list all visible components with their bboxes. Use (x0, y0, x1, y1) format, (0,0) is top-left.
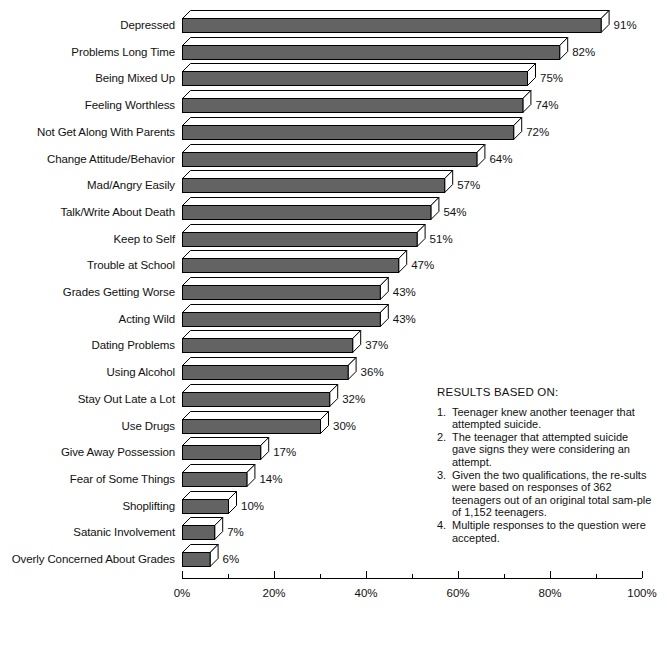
results-notes-block: RESULTS BASED ON: 1.Teenager knew anothe… (437, 386, 652, 544)
bar-row: Being Mixed Up75% (0, 63, 667, 90)
bar-top-face (182, 358, 356, 366)
x-tick-label: 0% (174, 587, 191, 599)
category-label: Being Mixed Up (0, 72, 175, 85)
bar-front-face (182, 526, 214, 540)
bar-row: Problems Long Time82% (0, 37, 667, 64)
results-note-number: 2. (437, 431, 446, 444)
results-notes-list: 1.Teenager knew another teenager that at… (437, 406, 652, 545)
bar-top-face (182, 144, 484, 152)
bar (182, 144, 486, 171)
bar-front-face (182, 232, 417, 246)
bar-top-face (183, 411, 329, 419)
category-label: Using Alcohol (0, 366, 175, 379)
bar-front-face (183, 286, 381, 300)
bar-value-label: 47% (411, 259, 434, 272)
bar-front-face (183, 72, 528, 86)
bar (182, 10, 611, 37)
bar-row: Overly Concerned About Grades6% (0, 544, 667, 571)
bar-top-face (182, 91, 530, 99)
bar-front-face (182, 45, 559, 59)
bar-row: Using Alcohol36% (0, 357, 667, 384)
category-label: Mad/Angry Easily (0, 179, 175, 192)
bar-front-face (182, 339, 352, 353)
bar (182, 63, 537, 90)
results-note-number: 3. (437, 469, 446, 482)
results-note-item: 2.The teenager that attempted suicide ga… (437, 431, 652, 469)
category-label: Give Away Possession (0, 446, 175, 459)
bar-row: Depressed91% (0, 10, 667, 37)
bar-row: Change Attitude/Behavior64% (0, 144, 667, 171)
x-tick-label: 80% (538, 587, 561, 599)
bar (182, 330, 362, 357)
category-label: Talk/Write About Death (0, 206, 175, 219)
bar-top-face (182, 117, 521, 125)
category-label: Dating Problems (0, 339, 175, 352)
results-note-text: Multiple responses to the question were … (452, 519, 646, 544)
results-notes-title: RESULTS BASED ON: (437, 386, 652, 399)
bar-row: Feeling Worthless74% (0, 90, 667, 117)
bar (182, 437, 270, 464)
bar-value-label: 43% (393, 286, 416, 299)
bar-top-face (183, 491, 237, 499)
category-label: Feeling Worthless (0, 99, 175, 112)
bar-front-face (182, 205, 430, 219)
bar-row: Mad/Angry Easily57% (0, 170, 667, 197)
bar-value-label: 14% (259, 473, 282, 486)
results-note-item: 3.Given the two qualifications, the re-s… (437, 469, 652, 519)
bar-chart: Depressed91%Problems Long Time82%Being M… (0, 0, 667, 647)
bar-row: Keep to Self51% (0, 224, 667, 251)
bar (182, 544, 220, 571)
bar-front-face (182, 125, 513, 139)
results-note-text: The teenager that attempted suicide gave… (452, 431, 630, 468)
category-label: Depressed (0, 19, 175, 32)
bar-value-label: 32% (342, 393, 365, 406)
bar-value-label: 57% (457, 179, 480, 192)
bar (182, 304, 390, 331)
results-note-item: 1.Teenager knew another teenager that at… (437, 406, 652, 431)
bar-top-face (182, 384, 337, 392)
bar-value-label: 64% (489, 153, 512, 166)
bar-row: Grades Getting Worse43% (0, 277, 667, 304)
bar-value-label: 74% (535, 99, 558, 112)
x-tick-label: 60% (446, 587, 469, 599)
bar (182, 197, 440, 224)
bar-value-label: 43% (393, 313, 416, 326)
bar-top-face (182, 197, 438, 205)
bar-top-face (182, 438, 268, 446)
bar-front-face (182, 152, 476, 166)
bar-value-label: 75% (540, 72, 563, 85)
category-label: Fear of Some Things (0, 473, 175, 486)
category-label: Problems Long Time (0, 46, 175, 59)
bar-front-face (182, 179, 444, 193)
bar-front-face (182, 472, 246, 486)
bar-front-face (183, 19, 602, 33)
results-note-number: 1. (437, 406, 446, 419)
category-label: Keep to Self (0, 233, 175, 246)
bar (182, 277, 390, 304)
bar-top-face (182, 171, 452, 179)
bar-top-face (183, 304, 389, 312)
bar (182, 170, 454, 197)
bar-row: Acting Wild43% (0, 304, 667, 331)
bar (182, 491, 238, 518)
bar-front-face (182, 553, 210, 567)
bar-value-label: 82% (572, 46, 595, 59)
bar-value-label: 91% (614, 19, 637, 32)
category-label: Trouble at School (0, 259, 175, 272)
category-label: Grades Getting Worse (0, 286, 175, 299)
bar-top-face (182, 464, 254, 472)
bar-front-face (182, 446, 260, 460)
results-note-text: Teenager knew another teenager that atte… (452, 406, 635, 431)
bar-value-label: 51% (430, 233, 453, 246)
bar (182, 464, 256, 491)
bar-top-face (182, 37, 567, 45)
bar (182, 357, 358, 384)
results-note-number: 4. (437, 519, 446, 532)
bar-top-face (182, 251, 406, 259)
category-label: Not Get Along With Parents (0, 126, 175, 139)
bar-value-label: 17% (273, 446, 296, 459)
bar-top-face (182, 331, 360, 339)
bar (182, 411, 330, 438)
bar-front-face (182, 99, 522, 113)
bar-top-face (182, 224, 425, 232)
